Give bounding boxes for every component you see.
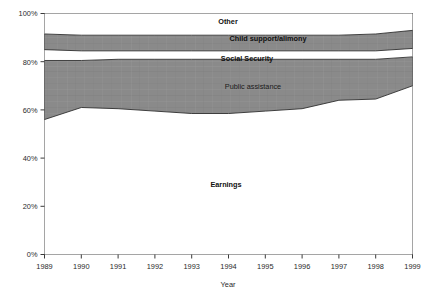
y-axis-tick-label: 0% — [27, 250, 38, 259]
area-bands — [45, 14, 413, 255]
y-axis-tick-label: 60% — [23, 106, 38, 115]
x-axis-tick-label: 1990 — [73, 262, 89, 271]
x-axis-tick-label: 1993 — [183, 262, 199, 271]
y-axis-tick-label: 100% — [19, 9, 38, 18]
chart-canvas: 0%20%40%60%80%100% 198919901991199219931… — [0, 0, 433, 299]
series-label-public-assistance: Public assistance — [225, 82, 281, 91]
series-label-child-support-alimony: Child support/alimony — [229, 34, 307, 43]
x-axis-tick-label: 1998 — [367, 262, 383, 271]
x-axis-tick-label: 1991 — [110, 262, 126, 271]
x-axis-tick-label: 1995 — [257, 262, 273, 271]
series-label-social-security: Social Security — [221, 54, 274, 63]
x-axis-tick-label: 1999 — [404, 262, 420, 271]
x-axis-tick-label: 1997 — [331, 262, 347, 271]
y-axis-tick-label: 80% — [23, 58, 38, 67]
y-axis-tick-label: 40% — [23, 154, 38, 163]
y-axis-tick-label: 20% — [23, 202, 38, 211]
x-axis-title: Year — [221, 280, 236, 289]
stacked-area-chart: 0%20%40%60%80%100% 198919901991199219931… — [0, 0, 433, 299]
x-axis-tick-label: 1996 — [294, 262, 310, 271]
series-label-earnings: Earnings — [210, 180, 241, 189]
series-label-other: Other — [218, 17, 238, 26]
x-axis-tick-label: 1994 — [220, 262, 236, 271]
x-axis-tick-label: 1992 — [147, 262, 163, 271]
x-axis-tick-label: 1989 — [36, 262, 52, 271]
